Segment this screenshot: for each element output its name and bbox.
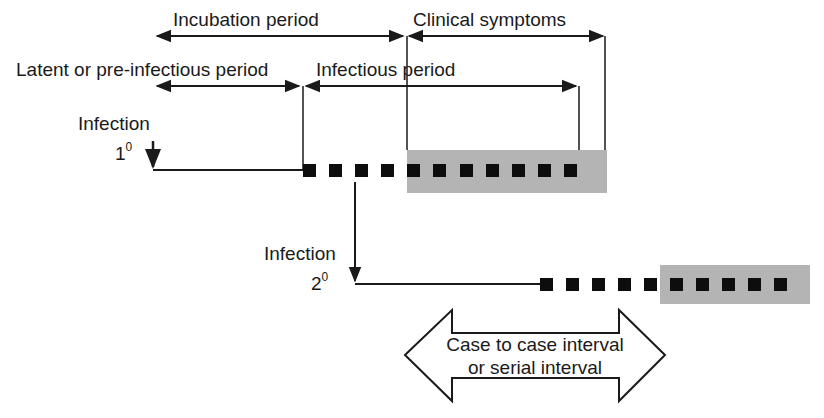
latent-period-label: Latent or pre-infectious period (16, 60, 268, 79)
serial-interval-label: Case to case interval or serial interval (425, 333, 645, 379)
primary-generation-label: 10 (115, 144, 132, 163)
primary-infection-label: Infection (78, 114, 150, 133)
secondary-generation-superscript: 0 (322, 270, 329, 284)
primary-generation-superscript: 0 (126, 140, 133, 154)
secondary-generation-label: 20 (311, 274, 328, 293)
serial-interval-line2: or serial interval (425, 356, 645, 379)
infectious-period-label: Infectious period (316, 60, 455, 79)
secondary-infection-label: Infection (264, 244, 336, 263)
incubation-period-label: Incubation period (173, 10, 319, 29)
secondary-generation-number: 2 (311, 273, 322, 294)
clinical-symptoms-label: Clinical symptoms (413, 10, 566, 29)
serial-interval-line1: Case to case interval (425, 333, 645, 356)
primary-generation-number: 1 (115, 143, 126, 164)
